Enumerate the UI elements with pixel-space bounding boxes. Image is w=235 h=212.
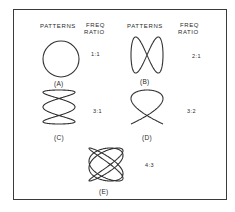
pattern-b-lissajous — [130, 36, 164, 74]
pattern-c-lissajous — [42, 89, 76, 125]
header-freq-right: FREQ — [180, 22, 199, 29]
pattern-c-label: (C) — [54, 134, 64, 141]
pattern-a-ratio: 1:1 — [91, 51, 100, 58]
pattern-a-circle — [42, 40, 80, 78]
header-patterns-right: PATTERNS — [127, 23, 163, 30]
pattern-e-lissajous — [88, 147, 124, 182]
pattern-a-label: (A) — [54, 80, 64, 87]
pattern-b-ratio: 2:1 — [192, 53, 201, 60]
pattern-d-label: (D) — [142, 134, 152, 141]
pattern-e-ratio: 4:3 — [145, 162, 154, 169]
header-ratio-right: RATIO — [178, 29, 199, 36]
pattern-b-label: (B) — [140, 78, 150, 85]
header-ratio-left: RATIO — [84, 29, 105, 36]
pattern-e-label: (E) — [99, 188, 109, 195]
pattern-d-lissajous — [130, 89, 164, 125]
header-patterns-left: PATTERNS — [40, 23, 76, 30]
pattern-c-ratio: 3:1 — [93, 108, 102, 115]
pattern-d-ratio: 3:2 — [187, 108, 196, 115]
header-freq-left: FREQ — [86, 22, 105, 29]
